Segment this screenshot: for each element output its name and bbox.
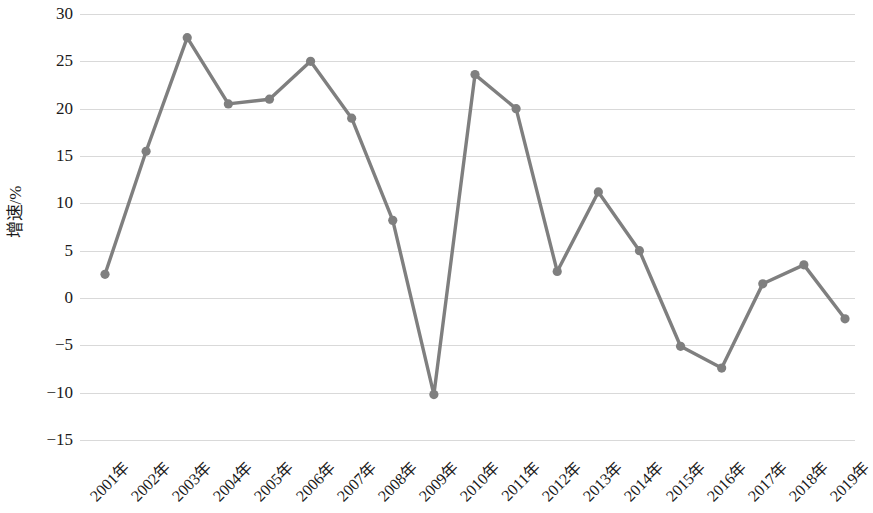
y-axis-tick-label: 30 bbox=[21, 4, 73, 24]
x-axis-tick-label: 2006年 bbox=[238, 455, 340, 513]
y-axis-tick-label: −10 bbox=[21, 383, 73, 403]
data-point-marker bbox=[553, 267, 562, 276]
plot-area bbox=[80, 0, 855, 455]
data-point-marker bbox=[594, 187, 603, 196]
data-point-marker bbox=[512, 104, 521, 113]
x-axis-tick-label: 2018年 bbox=[731, 455, 833, 513]
y-axis-tick-label: 0 bbox=[21, 288, 73, 308]
x-axis-tick-label: 2017年 bbox=[690, 455, 792, 513]
x-axis-tick-label: 2019年 bbox=[772, 455, 873, 513]
data-point-marker bbox=[388, 216, 397, 225]
data-point-marker bbox=[306, 57, 315, 66]
data-point-marker bbox=[635, 246, 644, 255]
data-point-marker bbox=[183, 33, 192, 42]
y-axis-tick-label: 15 bbox=[21, 146, 73, 166]
data-point-marker bbox=[100, 270, 109, 279]
y-axis-tick-label: 5 bbox=[21, 241, 73, 261]
x-axis-tick-label: 2002年 bbox=[73, 455, 175, 513]
x-axis-tick-label: 2004年 bbox=[155, 455, 257, 513]
x-axis-tick-label: 2010年 bbox=[402, 455, 504, 513]
data-point-marker bbox=[758, 279, 767, 288]
series-polyline bbox=[105, 38, 845, 395]
data-point-marker bbox=[142, 147, 151, 156]
x-axis-tick-label: 2007年 bbox=[279, 455, 381, 513]
data-point-marker bbox=[347, 114, 356, 123]
y-axis-tick-label: 25 bbox=[21, 51, 73, 71]
x-axis-tick-label: 2015年 bbox=[608, 455, 710, 513]
data-point-marker bbox=[676, 342, 685, 351]
data-point-marker bbox=[265, 95, 274, 104]
data-point-marker bbox=[470, 70, 479, 79]
x-axis-tick-label: 2012年 bbox=[484, 455, 586, 513]
data-point-marker bbox=[717, 363, 726, 372]
y-axis-tick-label: −15 bbox=[21, 430, 73, 450]
x-axis-tick-label: 2005年 bbox=[197, 455, 299, 513]
x-axis-tick-label: 2011年 bbox=[443, 455, 545, 513]
x-axis-tick-label: 2008年 bbox=[320, 455, 422, 513]
data-point-marker bbox=[799, 260, 808, 269]
y-axis-tick-label: 20 bbox=[21, 99, 73, 119]
y-axis-tick-label: −5 bbox=[21, 335, 73, 355]
y-axis-tick-labels: 302520151050−5−10−15 bbox=[0, 0, 73, 513]
x-axis-tick-label: 2009年 bbox=[361, 455, 463, 513]
data-point-marker bbox=[429, 390, 438, 399]
x-axis-tick-label: 2016年 bbox=[649, 455, 751, 513]
x-axis-tick-label: 2003年 bbox=[114, 455, 216, 513]
series-line-growth-rate bbox=[80, 0, 855, 455]
data-point-marker bbox=[840, 314, 849, 323]
data-point-marker bbox=[224, 99, 233, 108]
y-axis-tick-label: 10 bbox=[21, 193, 73, 213]
x-axis-tick-label: 2013年 bbox=[525, 455, 627, 513]
x-axis-tick-label: 2014年 bbox=[567, 455, 669, 513]
